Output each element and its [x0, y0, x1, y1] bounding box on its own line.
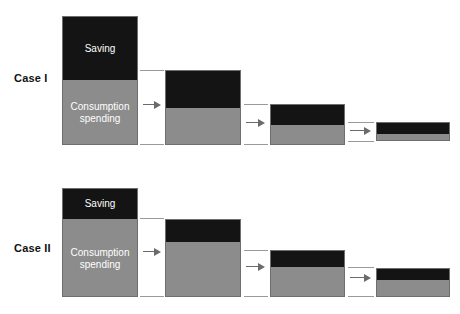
- flow-arrow-2: [246, 118, 265, 127]
- case-label-2: Case II: [14, 242, 51, 254]
- consumption-segment: Consumption spending: [63, 80, 137, 145]
- arrow-head-icon: [258, 119, 265, 127]
- income-bar-round-4: [376, 122, 450, 141]
- guide-line: [244, 296, 268, 297]
- saving-segment: [166, 220, 240, 242]
- saving-segment-label: Saving: [83, 198, 118, 210]
- diagram-canvas: Case ISavingConsumption spendingCase IIS…: [0, 0, 460, 314]
- income-bar-round-1: SavingConsumption spending: [62, 188, 138, 297]
- guide-line: [244, 144, 268, 145]
- arrow-head-icon: [364, 127, 371, 135]
- saving-segment: Saving: [63, 17, 137, 80]
- saving-segment: [271, 251, 344, 267]
- arrow-head-icon: [154, 101, 161, 109]
- consumption-segment: [377, 280, 449, 297]
- arrow-head-icon: [364, 274, 371, 282]
- arrow-shaft: [350, 130, 364, 131]
- income-bar-round-2: [165, 70, 241, 145]
- consumption-segment: [271, 125, 344, 145]
- flow-arrow-2: [246, 262, 265, 271]
- consumption-segment: Consumption spending: [63, 219, 137, 297]
- guide-line: [140, 296, 164, 297]
- arrow-shaft: [143, 251, 154, 252]
- guide-line: [140, 70, 164, 71]
- arrow-shaft: [246, 266, 258, 267]
- consumption-segment-label: Consumption spending: [63, 247, 137, 271]
- arrow-head-icon: [154, 248, 161, 256]
- guide-line: [348, 267, 374, 268]
- income-bar-round-2: [165, 219, 241, 297]
- arrow-shaft: [350, 277, 364, 278]
- guide-line: [140, 218, 164, 219]
- flow-arrow-1: [143, 100, 161, 109]
- flow-arrow-3: [350, 126, 371, 135]
- arrow-head-icon: [258, 263, 265, 271]
- flow-arrow-3: [350, 273, 371, 282]
- arrow-shaft: [143, 104, 154, 105]
- saving-segment-label: Saving: [83, 43, 118, 55]
- flow-arrow-1: [143, 247, 161, 256]
- guide-line: [244, 104, 268, 105]
- income-bar-round-3: [270, 250, 345, 297]
- guide-line: [348, 296, 374, 297]
- consumption-segment: [166, 108, 240, 145]
- saving-segment: Saving: [63, 189, 137, 219]
- consumption-segment: [377, 134, 449, 141]
- saving-segment: [166, 71, 240, 108]
- consumption-segment-label: Consumption spending: [63, 101, 137, 125]
- saving-segment: [271, 105, 344, 125]
- guide-line: [140, 144, 164, 145]
- consumption-segment: [166, 242, 240, 297]
- income-bar-round-1: SavingConsumption spending: [62, 16, 138, 145]
- guide-line: [348, 141, 374, 142]
- case-label-1: Case I: [14, 72, 48, 84]
- arrow-shaft: [246, 122, 258, 123]
- saving-segment: [377, 269, 449, 280]
- income-bar-round-3: [270, 104, 345, 145]
- income-bar-round-4: [376, 268, 450, 297]
- consumption-segment: [271, 267, 344, 297]
- guide-line: [244, 250, 268, 251]
- saving-segment: [377, 123, 449, 134]
- guide-line: [348, 122, 374, 123]
